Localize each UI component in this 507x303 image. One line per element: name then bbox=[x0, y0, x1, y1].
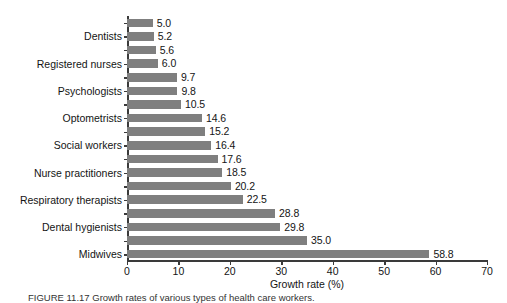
bar-value-label: 58.8 bbox=[433, 249, 453, 260]
x-axis-tick-label: 40 bbox=[327, 266, 339, 277]
x-axis-tick-label: 50 bbox=[378, 266, 390, 277]
bar-row: 14.6 bbox=[127, 114, 226, 123]
bar-row: 58.8 bbox=[127, 250, 453, 259]
bar-row: 9.8 bbox=[127, 87, 196, 96]
bar-value-label: 14.6 bbox=[206, 113, 226, 124]
bar-row: 15.2 bbox=[127, 127, 229, 136]
bar bbox=[127, 223, 280, 232]
y-axis-tick bbox=[124, 77, 128, 78]
x-axis-tick-label: 70 bbox=[481, 266, 493, 277]
category-label: Nurse practitioners bbox=[34, 168, 122, 179]
x-axis-tick-label: 10 bbox=[173, 266, 185, 277]
bar-value-label: 16.4 bbox=[215, 140, 235, 151]
y-axis-tick bbox=[124, 213, 128, 214]
y-axis-tick bbox=[124, 23, 128, 24]
x-axis-line bbox=[127, 260, 487, 262]
y-axis-tick bbox=[124, 145, 128, 146]
bar-value-label: 9.8 bbox=[181, 86, 195, 97]
x-axis-tick-label: 60 bbox=[430, 266, 442, 277]
y-axis-tick bbox=[124, 173, 128, 174]
bar bbox=[127, 19, 153, 28]
y-axis-tick bbox=[124, 91, 128, 92]
x-axis-tick bbox=[333, 260, 334, 265]
category-label: Dental hygienists bbox=[42, 222, 122, 233]
bar bbox=[127, 87, 177, 96]
bar-value-label: 20.2 bbox=[235, 181, 255, 192]
category-labels-layer: DentistsRegistered nursesPsychologistsOp… bbox=[0, 16, 122, 261]
y-axis-tick bbox=[124, 132, 128, 133]
bar bbox=[127, 46, 156, 55]
x-axis-tick bbox=[436, 260, 437, 265]
y-axis-tick bbox=[124, 50, 128, 51]
y-axis-tick bbox=[124, 241, 128, 242]
y-axis-tick bbox=[124, 254, 128, 255]
bar-row: 9.7 bbox=[127, 73, 195, 82]
bar bbox=[127, 236, 307, 245]
bar-row: 28.8 bbox=[127, 209, 299, 218]
bar-value-label: 18.5 bbox=[226, 167, 246, 178]
x-axis-tick bbox=[487, 260, 488, 265]
x-axis-tick-label: 0 bbox=[124, 266, 130, 277]
bar-value-label: 10.5 bbox=[185, 99, 205, 110]
bar bbox=[127, 250, 429, 259]
bar-row: 17.6 bbox=[127, 155, 242, 164]
bar-value-label: 15.2 bbox=[209, 126, 229, 137]
bar-row: 22.5 bbox=[127, 195, 267, 204]
bar-row: 5.6 bbox=[127, 46, 174, 55]
bar-value-label: 5.6 bbox=[160, 45, 174, 56]
y-axis-tick bbox=[124, 36, 128, 37]
figure-caption: FIGURE 11.17 Growth rates of various typ… bbox=[28, 292, 498, 303]
bar bbox=[127, 155, 218, 164]
bar-value-label: 6.0 bbox=[162, 58, 176, 69]
category-label: Registered nurses bbox=[37, 59, 122, 70]
x-axis-tick bbox=[384, 260, 385, 265]
category-label: Dentists bbox=[84, 31, 122, 42]
x-axis-tick bbox=[178, 260, 179, 265]
bar-row: 5.0 bbox=[127, 19, 171, 28]
category-label: Respiratory therapists bbox=[20, 195, 122, 206]
bar bbox=[127, 209, 275, 218]
bar bbox=[127, 73, 177, 82]
x-axis-tick bbox=[127, 260, 128, 265]
x-axis-tick bbox=[230, 260, 231, 265]
bar bbox=[127, 100, 181, 109]
bar bbox=[127, 195, 243, 204]
bar-value-label: 35.0 bbox=[311, 235, 331, 246]
bar bbox=[127, 168, 222, 177]
bar-row: 5.2 bbox=[127, 32, 172, 41]
y-axis-tick bbox=[124, 200, 128, 201]
bar-row: 10.5 bbox=[127, 100, 205, 109]
category-label: Midwives bbox=[79, 249, 122, 260]
y-axis-tick bbox=[124, 186, 128, 187]
bar bbox=[127, 127, 205, 136]
y-axis-tick bbox=[124, 118, 128, 119]
bar-row: 29.8 bbox=[127, 223, 304, 232]
bar-row: 35.0 bbox=[127, 236, 331, 245]
bar bbox=[127, 182, 231, 191]
x-axis-title: Growth rate (%) bbox=[127, 279, 487, 290]
bar-value-label: 5.0 bbox=[157, 18, 171, 29]
y-axis-tick bbox=[124, 64, 128, 65]
y-axis-tick bbox=[124, 227, 128, 228]
bar-value-label: 28.8 bbox=[279, 208, 299, 219]
bar-value-label: 17.6 bbox=[222, 154, 242, 165]
category-label: Psychologists bbox=[58, 86, 122, 97]
category-label: Social workers bbox=[54, 140, 122, 151]
bar-value-label: 5.2 bbox=[158, 31, 172, 42]
x-axis-tick bbox=[281, 260, 282, 265]
bar bbox=[127, 32, 154, 41]
x-axis-tick-label: 30 bbox=[275, 266, 287, 277]
category-label: Optometrists bbox=[62, 113, 122, 124]
bar-row: 20.2 bbox=[127, 182, 255, 191]
bar bbox=[127, 141, 211, 150]
y-axis-tick bbox=[124, 104, 128, 105]
bar bbox=[127, 59, 158, 68]
bar bbox=[127, 114, 202, 123]
bar-value-label: 22.5 bbox=[247, 194, 267, 205]
bar-row: 6.0 bbox=[127, 59, 176, 68]
y-axis-tick bbox=[124, 159, 128, 160]
x-axis-tick-label: 20 bbox=[224, 266, 236, 277]
bar-value-label: 9.7 bbox=[181, 72, 195, 83]
bar-row: 16.4 bbox=[127, 141, 235, 150]
